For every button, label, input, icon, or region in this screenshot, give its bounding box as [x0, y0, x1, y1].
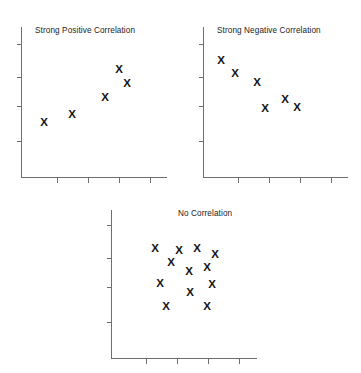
data-point-marker: X [40, 117, 48, 129]
data-point-marker: X [217, 55, 225, 67]
y-axis-line-panel2 [203, 27, 204, 178]
panel-title-strong-positive: Strong Positive Correlation [35, 27, 135, 35]
data-point-marker: X [185, 266, 193, 278]
data-point-marker: X [162, 301, 170, 313]
panel-strong-positive-correlation: Strong Positive Correlation X X X X X [0, 0, 181, 190]
data-point-marker: X [167, 257, 175, 269]
y-axis-line-panel3 [111, 210, 112, 359]
x-axis-tick [269, 178, 270, 183]
y-axis-tick [17, 106, 22, 107]
y-axis-tick [199, 106, 204, 107]
data-point-marker: X [253, 77, 261, 89]
y-axis-tick [107, 225, 112, 226]
x-axis-tick [239, 359, 240, 364]
x-axis-line-panel3 [111, 358, 257, 359]
y-axis-tick [199, 141, 204, 142]
y-axis-tick [17, 141, 22, 142]
data-point-marker: X [156, 278, 164, 290]
y-axis-tick [17, 44, 22, 45]
y-axis-tick [107, 322, 112, 323]
x-axis-tick [300, 178, 301, 183]
x-axis-tick [57, 178, 58, 183]
correlation-scatter-figure: Strong Positive Correlation X X X X X St… [0, 0, 361, 373]
x-axis-tick [177, 359, 178, 364]
data-point-marker: X [203, 301, 211, 313]
y-axis-tick [199, 44, 204, 45]
x-axis-line-panel2 [203, 177, 348, 178]
panel-title-strong-negative: Strong Negative Correlation [217, 27, 321, 35]
x-axis-tick [331, 178, 332, 183]
x-axis-tick [238, 178, 239, 183]
data-point-marker: X [211, 249, 219, 261]
y-axis-tick [17, 77, 22, 78]
x-axis-tick [146, 359, 147, 364]
data-point-marker: X [203, 262, 211, 274]
data-point-marker: X [261, 103, 269, 115]
data-point-marker: X [186, 287, 194, 299]
data-point-marker: X [231, 68, 239, 80]
y-axis-tick [199, 77, 204, 78]
x-axis-tick [208, 359, 209, 364]
x-axis-line-panel1 [21, 177, 167, 178]
data-point-marker: X [293, 102, 301, 114]
data-point-marker: X [123, 78, 131, 90]
panel-strong-negative-correlation: Strong Negative Correlation X X X X X X [181, 0, 361, 190]
data-point-marker: X [175, 245, 183, 257]
data-point-marker: X [101, 92, 109, 104]
x-axis-tick [150, 178, 151, 183]
x-axis-tick [88, 178, 89, 183]
y-axis-tick [107, 258, 112, 259]
data-point-marker: X [208, 279, 216, 291]
data-point-marker: X [68, 109, 76, 121]
panel-no-correlation: No Correlation X X X X X X X X X X X X [90, 190, 271, 373]
data-point-marker: X [151, 243, 159, 255]
data-point-marker: X [115, 64, 123, 76]
y-axis-tick [107, 287, 112, 288]
x-axis-tick [119, 178, 120, 183]
data-point-marker: X [193, 243, 201, 255]
y-axis-line-panel1 [21, 27, 22, 178]
panel-title-no-correlation: No Correlation [178, 210, 232, 218]
data-point-marker: X [281, 94, 289, 106]
